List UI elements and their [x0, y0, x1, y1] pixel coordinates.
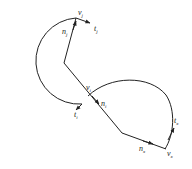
diagram-canvas: vj tj nj vi ni ti tx vx nx	[0, 0, 192, 169]
vector-tj	[76, 18, 90, 23]
label-ti: ti	[74, 110, 78, 120]
label-vi: vi	[86, 83, 92, 93]
label-ni: ni	[101, 99, 107, 109]
vector-nx	[143, 141, 153, 144]
vector-ni	[92, 96, 99, 104]
label-nj: nj	[62, 27, 68, 37]
label-nx: nx	[139, 144, 146, 154]
vector-tx	[168, 128, 174, 140]
label-vj: vj	[78, 8, 84, 18]
label-vx: vx	[167, 149, 174, 159]
label-tx: tx	[174, 116, 179, 126]
vector-ti	[76, 104, 82, 110]
arc-j	[36, 18, 82, 104]
label-tj: tj	[94, 24, 98, 34]
arc-x	[88, 80, 173, 149]
